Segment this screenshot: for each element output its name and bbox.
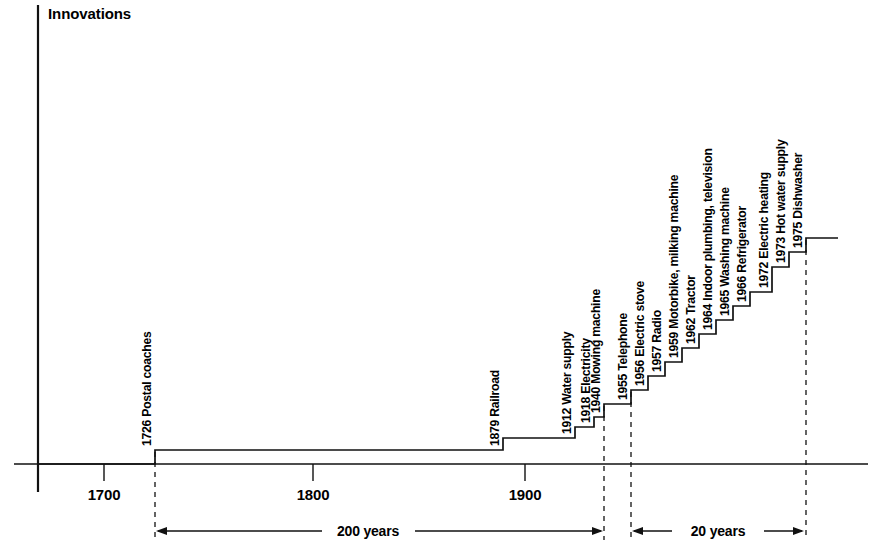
step-label-1912-water-supply: 1912 Water supply	[560, 331, 574, 434]
annotation-200-years: 200 years	[156, 523, 603, 539]
annotation-20-years-label: 20 years	[691, 523, 746, 539]
step-label-1940-mowing-machine: 1940 Mowing machine	[589, 289, 603, 413]
clipped-top-text	[120, 0, 450, 3]
step-label-1975-dishwasher: 1975 Dishwasher	[791, 152, 805, 248]
step-label-1964-indoor-plumbing-television: 1964 Indoor plumbing, television	[701, 148, 715, 330]
x-tick-label-1700: 1700	[88, 486, 121, 503]
x-tick-label-1900: 1900	[509, 486, 542, 503]
step-label-1972-electric-heating: 1972 Electric heating	[757, 172, 771, 288]
step-label-1956-electric-stove: 1956 Electric stove	[633, 281, 647, 386]
chart-page: 1700 1800 1900 Innovations 1726 Postal c…	[0, 0, 870, 556]
step-label-1959-motorbike-milking-machine: 1959 Motorbike, milking machine	[667, 174, 681, 358]
step-label-1965-washing-machine: 1965 Washing machine	[718, 187, 732, 316]
annotation-20-years: 20 years	[632, 523, 804, 539]
step-label-1955-telephone: 1955 Telephone	[616, 312, 630, 400]
step-label-1966-refrigerator: 1966 Refrigerator	[735, 205, 749, 302]
step-label-1973-hot-water-supply: 1973 Hot water supply	[774, 139, 788, 263]
innovations-staircase-chart: 1700 1800 1900 Innovations 1726 Postal c…	[0, 0, 870, 556]
step-label-1726-postal-coaches: 1726 Postal coaches	[140, 331, 154, 446]
annotation-200-years-label: 200 years	[337, 523, 399, 539]
x-tick-label-1800: 1800	[297, 486, 330, 503]
step-label-1879-railroad: 1879 Railroad	[488, 370, 502, 446]
step-label-1957-radio: 1957 Radio	[650, 310, 664, 372]
y-axis-title: Innovations	[48, 5, 131, 22]
step-label-1962-tractor: 1962 Tractor	[684, 275, 698, 344]
